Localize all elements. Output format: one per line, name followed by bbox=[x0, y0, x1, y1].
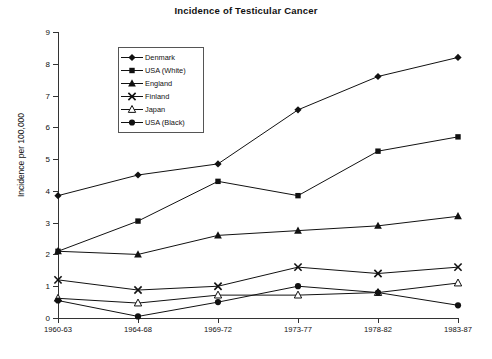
y-tick-label: 7 bbox=[46, 91, 50, 100]
legend-item-usa-black[interactable]: USA (Black) bbox=[121, 116, 199, 129]
marker-diamond bbox=[134, 171, 141, 178]
marker-square bbox=[129, 68, 134, 73]
marker-square bbox=[295, 193, 300, 198]
series-line bbox=[58, 283, 458, 303]
series-line bbox=[58, 286, 458, 316]
legend-label: Japan bbox=[145, 105, 165, 114]
legend-label: England bbox=[145, 79, 172, 88]
marker-diamond bbox=[128, 54, 135, 61]
marker-triangle bbox=[128, 79, 136, 86]
series-denmark bbox=[54, 54, 461, 199]
x-tick-mark bbox=[298, 318, 299, 323]
marker-diamond bbox=[294, 106, 301, 113]
x-tick-label: 1973-77 bbox=[284, 325, 312, 334]
series-usa-white bbox=[55, 134, 460, 254]
legend-marker-triangle-icon bbox=[121, 77, 143, 90]
marker-circle bbox=[295, 283, 301, 289]
y-tick-label: 2 bbox=[46, 250, 50, 259]
x-tick-label: 1978-82 bbox=[364, 325, 392, 334]
x-tick-label: 1960-63 bbox=[44, 325, 72, 334]
x-tick-label: 1983-87 bbox=[444, 325, 472, 334]
series-line bbox=[58, 216, 458, 254]
marker-triangle bbox=[454, 212, 462, 219]
marker-diamond bbox=[54, 192, 61, 199]
legend-marker-x-icon bbox=[121, 90, 143, 103]
legend-item-japan[interactable]: Japan bbox=[121, 103, 199, 116]
marker-square bbox=[215, 179, 220, 184]
marker-triangle-open bbox=[454, 279, 461, 286]
x-tick-mark bbox=[378, 318, 379, 323]
y-tick-label: 1 bbox=[46, 282, 50, 291]
series-line bbox=[58, 267, 458, 290]
y-tick-label: 6 bbox=[46, 123, 50, 132]
y-tick-label: 3 bbox=[46, 218, 50, 227]
legend-item-england[interactable]: England bbox=[121, 77, 199, 90]
marker-circle bbox=[375, 289, 381, 295]
x-tick-label: 1964-68 bbox=[124, 325, 152, 334]
chart-container: Incidence of Testicular Cancer Incidence… bbox=[0, 0, 492, 359]
x-tick-mark bbox=[218, 318, 219, 323]
y-axis-label: Incidence per 100,000 bbox=[16, 85, 26, 225]
legend-item-usa-white[interactable]: USA (White) bbox=[121, 64, 199, 77]
legend-marker-circle-icon bbox=[121, 116, 143, 129]
y-tick-label: 9 bbox=[46, 28, 50, 37]
marker-square bbox=[135, 218, 140, 223]
marker-triangle-open bbox=[214, 291, 221, 298]
series-japan bbox=[54, 279, 461, 306]
y-tick-label: 0 bbox=[46, 314, 50, 323]
marker-triangle-open bbox=[128, 106, 135, 113]
x-tick-label: 1969-72 bbox=[204, 325, 232, 334]
marker-x bbox=[128, 93, 135, 100]
series-england bbox=[54, 212, 462, 257]
x-tick-mark bbox=[458, 318, 459, 323]
marker-circle bbox=[215, 299, 221, 305]
series-finland bbox=[54, 264, 461, 294]
legend-label: USA (Black) bbox=[145, 118, 185, 127]
y-tick-label: 5 bbox=[46, 155, 50, 164]
y-tick-label: 4 bbox=[46, 186, 50, 195]
marker-diamond bbox=[214, 160, 221, 167]
chart-title: Incidence of Testicular Cancer bbox=[0, 5, 492, 16]
x-axis-line bbox=[58, 318, 458, 319]
marker-circle bbox=[135, 313, 141, 319]
marker-circle bbox=[55, 297, 61, 303]
legend-item-finland[interactable]: Finland bbox=[121, 90, 199, 103]
marker-circle bbox=[129, 119, 135, 125]
legend-marker-square-icon bbox=[121, 64, 143, 77]
legend-marker-diamond-icon bbox=[121, 51, 143, 64]
chart-legend: DenmarkUSA (White)EnglandFinlandJapanUSA… bbox=[118, 47, 204, 133]
series-line bbox=[58, 137, 458, 251]
legend-label: USA (White) bbox=[145, 66, 186, 75]
marker-circle bbox=[455, 302, 461, 308]
x-tick-mark bbox=[58, 318, 59, 323]
y-tick-label: 8 bbox=[46, 59, 50, 68]
legend-marker-triangle-open-icon bbox=[121, 103, 143, 116]
legend-label: Denmark bbox=[145, 53, 175, 62]
marker-square bbox=[455, 134, 460, 139]
legend-item-denmark[interactable]: Denmark bbox=[121, 51, 199, 64]
marker-square bbox=[375, 148, 380, 153]
marker-diamond bbox=[374, 73, 381, 80]
marker-diamond bbox=[454, 54, 461, 61]
legend-label: Finland bbox=[145, 92, 169, 101]
